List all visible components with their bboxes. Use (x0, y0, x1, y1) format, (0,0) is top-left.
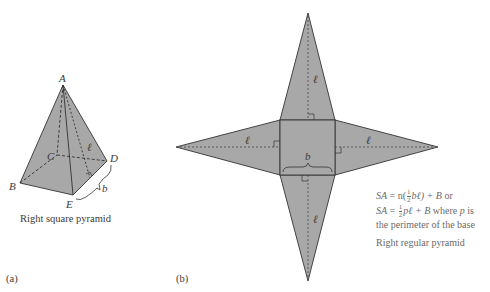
slant-label-top: ℓ (313, 73, 318, 85)
formula-line-1: SA = n(12bℓ) + B or (376, 189, 475, 204)
formula-line-2: SA = 12pℓ + B where p is (376, 204, 475, 219)
net-top-triangle (280, 13, 335, 120)
vertex-label-b: B (9, 180, 16, 192)
base-label: b (102, 182, 108, 194)
slant-label-bottom: ℓ (313, 213, 318, 225)
formula-line-3: the perimeter of the base (376, 219, 475, 232)
pyramid-diagram (0, 0, 490, 292)
fraction-half: 12 (407, 189, 411, 204)
slant-label-left: ℓ (245, 134, 250, 146)
slant-label: ℓ (87, 141, 92, 153)
vertex-label-d: D (110, 152, 118, 164)
fraction-half: 12 (399, 204, 403, 219)
net-right-triangle (335, 120, 438, 175)
vertex-label-c: C (47, 150, 54, 162)
net-left-triangle (176, 120, 280, 175)
slant-label-right: ℓ (366, 134, 371, 146)
caption-b: Right regular pyramid (376, 237, 465, 248)
vertex-label-a: A (59, 72, 66, 84)
caption-a: Right square pyramid (20, 213, 111, 224)
pyramid-front-faces (20, 85, 107, 195)
square-pyramid (20, 85, 111, 200)
surface-area-formula: SA = n(12bℓ) + B or SA = 12pℓ + B where … (376, 189, 475, 232)
net-base-label: b (305, 150, 311, 162)
panel-label-a: (a) (6, 273, 18, 284)
vertex-label-e: E (66, 198, 73, 210)
net-bottom-triangle (280, 175, 335, 281)
panel-label-b: (b) (176, 273, 188, 284)
